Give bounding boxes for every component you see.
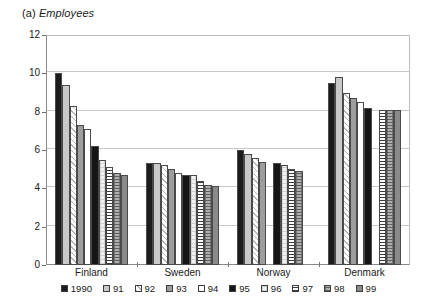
bar: [182, 175, 189, 265]
bar: [328, 83, 335, 265]
legend-swatch-icon: [61, 285, 68, 292]
bar: [161, 165, 168, 265]
legend-label: 99: [366, 284, 377, 294]
bar: [204, 185, 211, 266]
legend-item[interactable]: 94: [198, 284, 219, 294]
bar: [379, 110, 386, 265]
legend-swatch-icon: [166, 285, 173, 292]
y-tick-mark: [42, 265, 46, 266]
bar: [281, 165, 288, 265]
bar: [121, 175, 128, 265]
bar: [62, 85, 69, 265]
legend-item[interactable]: 91: [103, 284, 124, 294]
legend-item[interactable]: 97: [292, 284, 313, 294]
chart-title-prefix: (a): [22, 7, 39, 19]
bar: [84, 129, 91, 265]
x-axis-category-label: Finland: [75, 267, 108, 278]
legend-item[interactable]: 95: [229, 284, 250, 294]
bar: [70, 106, 77, 265]
bar: [237, 150, 244, 265]
bar-group: [55, 35, 128, 265]
chart-title: (a) Employees: [22, 7, 94, 19]
legend-swatch-icon: [324, 285, 331, 292]
legend-swatch-icon: [198, 285, 205, 292]
bar: [91, 146, 98, 265]
x-tick-mark: [228, 262, 229, 267]
bar: [244, 154, 251, 265]
bar: [212, 186, 219, 265]
bar: [335, 77, 342, 265]
legend-swatch-icon: [356, 285, 363, 292]
legend-label: 93: [176, 284, 187, 294]
chart-legend: 1990919293949596979899: [0, 284, 437, 294]
x-tick-mark: [319, 262, 320, 267]
bar: [175, 173, 182, 265]
x-axis-category-label: Denmark: [344, 267, 385, 278]
bar: [343, 93, 350, 266]
bar-group: [237, 35, 310, 265]
bar: [146, 163, 153, 265]
legend-label: 1990: [71, 284, 92, 294]
bar-group: [328, 35, 401, 265]
bar: [106, 167, 113, 265]
bar: [153, 163, 160, 265]
bar: [252, 158, 259, 265]
bar: [99, 160, 106, 265]
bar: [55, 73, 62, 265]
bar: [197, 181, 204, 265]
bar: [77, 125, 84, 265]
legend-label: 98: [334, 284, 345, 294]
bar: [386, 110, 393, 265]
y-axis-ticks: [0, 35, 46, 265]
bar: [273, 163, 280, 265]
legend-label: 91: [113, 284, 124, 294]
bar: [113, 173, 120, 265]
legend-item[interactable]: 1990: [61, 284, 92, 294]
legend-item[interactable]: 98: [324, 284, 345, 294]
x-axis-category-label: Norway: [257, 267, 291, 278]
legend-label: 96: [271, 284, 282, 294]
x-axis-category-label: Sweden: [164, 267, 200, 278]
x-tick-mark: [137, 262, 138, 267]
legend-label: 97: [302, 284, 313, 294]
legend-label: 94: [208, 284, 219, 294]
legend-item[interactable]: 99: [356, 284, 377, 294]
bar: [168, 169, 175, 265]
bar: [364, 108, 371, 265]
legend-swatch-icon: [135, 285, 142, 292]
legend-swatch-icon: [103, 285, 110, 292]
bar: [394, 110, 401, 265]
chart-title-text: Employees: [39, 7, 94, 19]
legend-item[interactable]: 93: [166, 284, 187, 294]
bar: [288, 169, 295, 265]
legend-item[interactable]: 96: [261, 284, 282, 294]
x-axis-labels: FinlandSwedenNorwayDenmark: [46, 267, 410, 283]
bar: [350, 98, 357, 265]
employees-bar-chart: (a) Employees 024681012 FinlandSwedenNor…: [0, 0, 437, 308]
bar: [190, 175, 197, 265]
legend-swatch-icon: [261, 285, 268, 292]
bar: [259, 162, 266, 266]
bar: [357, 102, 364, 265]
bars-layer: [46, 35, 410, 265]
bar-group: [146, 35, 219, 265]
legend-item[interactable]: 92: [135, 284, 156, 294]
bar: [295, 171, 302, 265]
legend-swatch-icon: [229, 285, 236, 292]
legend-label: 92: [145, 284, 156, 294]
legend-label: 95: [239, 284, 250, 294]
legend-swatch-icon: [292, 285, 299, 292]
